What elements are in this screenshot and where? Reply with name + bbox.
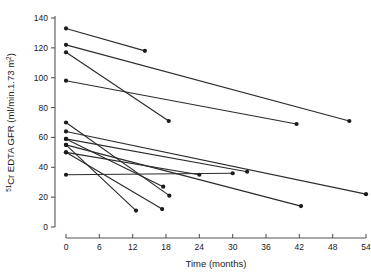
series-line-segment [66,139,247,172]
data-point-marker [64,50,68,54]
data-point-marker [245,170,249,174]
data-point-marker [294,122,298,126]
data-point-marker [161,185,165,189]
data-point-marker [64,143,68,147]
gfr-chart: 020406080100120140 061218243036424854 Ti… [0,0,371,276]
y-axis-tick-label: 80 [39,103,49,113]
data-point-marker [167,194,171,198]
series-patient-4 [64,79,299,126]
data-point-marker [64,26,68,30]
series-patient-1 [64,26,147,53]
series-line-segment [66,45,349,121]
data-point-marker [64,43,68,47]
data-point-marker [143,49,147,53]
y-axis-tick-label: 100 [34,73,48,83]
series-line-segment [66,173,233,174]
chart-plot-area: 020406080100120140 061218243036424854 Ti… [0,0,371,276]
x-axis-tick-label: 48 [328,242,338,252]
y-axis-tick-label: 60 [39,132,49,142]
data-point-marker [299,204,303,208]
data-point-marker [64,129,68,133]
data-series-group [64,26,368,212]
x-axis-tick-label: 6 [97,242,102,252]
y-axis-tick-label: 140 [34,13,48,23]
x-axis-title: Time (months) [186,258,247,269]
x-axis: 061218243036424854 [64,234,371,252]
y-axis-tick-label: 0 [43,222,48,232]
x-axis-tick-label: 18 [161,242,171,252]
y-axis-tick-label: 120 [34,43,48,53]
data-point-marker [64,79,68,83]
data-point-marker [64,173,68,177]
y-axis-tick-label: 20 [39,192,49,202]
data-point-marker [231,171,235,175]
series-line-segment [66,145,136,211]
data-point-marker [64,120,68,124]
series-patient-11 [64,143,138,213]
data-point-marker [64,150,68,154]
data-point-marker [160,207,164,211]
x-axis-tick-label: 42 [295,242,305,252]
x-axis-tick-label: 24 [195,242,205,252]
y-axis-title-main: Cr EDTA GFR (ml/min.1.73 m [5,60,16,185]
x-axis-tick-label: 0 [64,242,69,252]
x-axis-tick-label: 12 [128,242,138,252]
series-patient-5 [64,120,172,197]
series-line-segment [66,52,169,121]
data-point-marker [364,192,368,196]
series-patient-12 [64,171,235,177]
series-patient-8 [64,143,303,208]
data-point-marker [167,119,171,123]
y-axis-tick-label: 40 [39,162,49,172]
y-axis: 020406080100120140 [34,13,55,232]
data-point-marker [134,208,138,212]
series-line-segment [66,145,301,206]
series-line-segment [66,81,297,124]
x-axis-tick-label: 36 [261,242,271,252]
data-point-marker [347,119,351,123]
series-line-segment [66,131,366,194]
y-axis-title-tail: ) [5,53,16,56]
data-point-marker [64,137,68,141]
series-patient-2 [64,43,352,123]
series-patient-3 [64,50,171,123]
x-axis-tick-label: 30 [228,242,238,252]
y-axis-title: 51Cr EDTA GFR (ml/min.1.73 m2) [5,53,16,192]
x-axis-tick-label: 54 [361,242,371,252]
series-line-segment [66,139,163,187]
